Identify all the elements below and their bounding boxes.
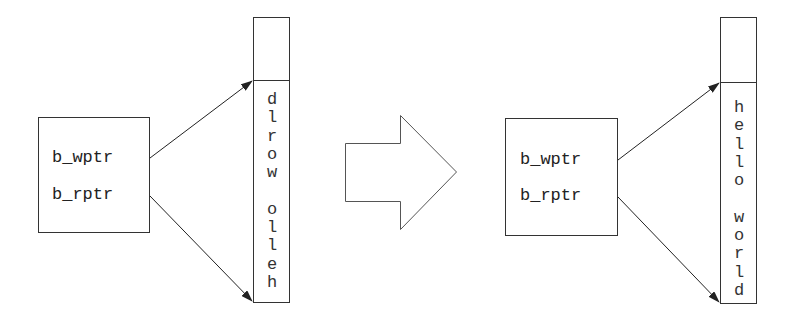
right-arrow-icon [346, 116, 457, 230]
right-rptr-arrow [618, 197, 719, 302]
left-pointer-box [39, 118, 150, 233]
right-pointer-box [506, 119, 618, 236]
left-rptr-arrow [150, 196, 252, 301]
right-buffer-text: hello world [721, 99, 757, 300]
right-wptr-arrow [618, 83, 719, 160]
left-wptr-arrow [150, 81, 252, 158]
right-rptr-label: b_rptr [520, 186, 581, 205]
diagram-canvas: b_wptr b_rptr dlrow olleh b_wptr b_rptr … [0, 0, 795, 332]
left-wptr-label: b_wptr [52, 148, 113, 167]
right-wptr-label: b_wptr [520, 150, 581, 169]
left-rptr-label: b_rptr [52, 185, 113, 204]
diagram-shapes [0, 0, 795, 332]
left-buffer-text: dlrow olleh [254, 91, 290, 292]
